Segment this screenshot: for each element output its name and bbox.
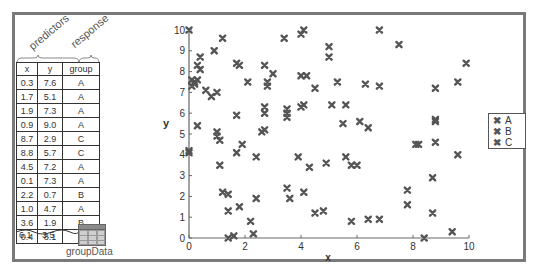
data-point-marker: [357, 119, 362, 124]
table-cell: 2.2: [17, 188, 38, 202]
table-name-label: groupData: [66, 246, 113, 257]
x-tick-label: 10: [463, 241, 475, 252]
x-tick-label: 6: [354, 241, 360, 252]
marker-icon: ✖: [489, 126, 505, 137]
table-row: 2.20.7B: [17, 188, 100, 202]
series-a: [186, 27, 317, 167]
data-point-marker: [195, 123, 200, 128]
y-tick-label: 9: [179, 45, 185, 56]
table-cell: A: [63, 104, 100, 118]
data-point-marker: [214, 90, 219, 95]
data-point-marker: [349, 219, 354, 224]
table-cell: 2.9: [38, 132, 63, 146]
table-row: 8.72.9C: [17, 132, 100, 146]
y-tick-label: 1: [179, 212, 185, 223]
table-cell: 8.8: [17, 146, 38, 160]
x-tick-label: 4: [298, 241, 304, 252]
data-point-marker: [287, 196, 292, 201]
data-point-marker: [296, 154, 301, 159]
y-tick-label: 6: [179, 108, 185, 119]
data-point-marker: [265, 84, 270, 89]
table-row: 1.04.7A: [17, 202, 100, 216]
data-point-marker: [464, 61, 469, 66]
data-point-marker: [203, 88, 208, 93]
y-axis-label: y: [163, 117, 170, 129]
table-cell: 7.3: [38, 104, 63, 118]
data-point-marker: [298, 73, 303, 78]
table-cell: 4.5: [17, 160, 38, 174]
table-cell: 1.9: [17, 104, 38, 118]
table-row: 1.75.1A: [17, 90, 100, 104]
data-point-marker: [340, 121, 345, 126]
data-point-marker: [335, 79, 340, 84]
data-point-marker: [262, 111, 267, 116]
data-point-marker: [354, 163, 359, 168]
data-point-marker: [312, 86, 317, 91]
scatter-plot: 0246810012345678910 x y: [150, 20, 480, 265]
data-point-marker: [366, 125, 371, 130]
data-point-marker: [326, 44, 331, 49]
data-point-marker: [212, 48, 217, 53]
data-point-marker: [326, 54, 331, 59]
data-point-marker: [329, 102, 334, 107]
data-point-marker: [226, 192, 231, 197]
table-row: 0.37.6A: [17, 76, 100, 90]
y-tick-label: 3: [179, 170, 185, 181]
data-point-marker: [284, 185, 289, 190]
data-point-marker: [321, 208, 326, 213]
data-point-marker: [254, 196, 259, 201]
data-point-marker: [226, 208, 231, 213]
table-cell: 7.6: [38, 76, 63, 90]
table-cell: 0.9: [17, 118, 38, 132]
y-tick-label: 0: [179, 233, 185, 244]
data-point-marker: [217, 163, 222, 168]
table-cell: 1.0: [17, 202, 38, 216]
legend-item-a: ✖ A: [489, 115, 525, 125]
table-header-row: x y group: [17, 63, 100, 76]
table-cell: C: [63, 146, 100, 160]
data-point-marker: [343, 102, 348, 107]
x-tick-label: 0: [186, 241, 192, 252]
data-point-marker: [270, 71, 275, 76]
data-point-marker: [312, 210, 317, 215]
legend-item-b: ✖ B: [489, 126, 525, 136]
column-header-x: x: [17, 63, 38, 76]
data-point-marker: [282, 36, 287, 41]
x-axis-label: x: [325, 252, 331, 263]
data-point-marker: [220, 190, 225, 195]
data-point-marker: [284, 115, 289, 120]
table-row: 4.57.2A: [17, 160, 100, 174]
data-point-marker: [262, 63, 267, 68]
data-point-marker: [234, 113, 239, 118]
table-row: 0.17.3A: [17, 174, 100, 188]
data-point-marker: [254, 154, 259, 159]
y-tick-label: 8: [179, 66, 185, 77]
table-row: 8.85.7C: [17, 146, 100, 160]
table-cell: B: [63, 188, 100, 202]
table-cell: 0.1: [17, 174, 38, 188]
table-icon: [78, 224, 106, 246]
data-point-marker: [240, 142, 245, 147]
data-point-marker: [430, 175, 435, 180]
y-tick-label: 7: [179, 87, 185, 98]
data-point-marker: [324, 161, 329, 166]
table-cell: 1.7: [17, 90, 38, 104]
table-cell: 4.7: [38, 202, 63, 216]
data-point-marker: [377, 27, 382, 32]
x-tick-label: 2: [242, 241, 248, 252]
data-point-marker: [396, 42, 401, 47]
y-tick-label: 5: [179, 129, 185, 140]
x-tick-label: 8: [410, 241, 416, 252]
table-cell: 7.3: [38, 174, 63, 188]
data-point-marker: [248, 219, 253, 224]
y-tick-label: 4: [179, 149, 185, 160]
table-row: 1.97.3A: [17, 104, 100, 118]
table-cell: A: [63, 118, 100, 132]
data-point-marker: [450, 229, 455, 234]
table-cell: A: [63, 90, 100, 104]
table-cell: A: [63, 174, 100, 188]
data-point-marker: [430, 210, 435, 215]
table-cell: 0.7: [38, 188, 63, 202]
data-point-marker: [209, 94, 214, 99]
chart-legend: ✖ A ✖ B ✖ C: [488, 113, 526, 149]
